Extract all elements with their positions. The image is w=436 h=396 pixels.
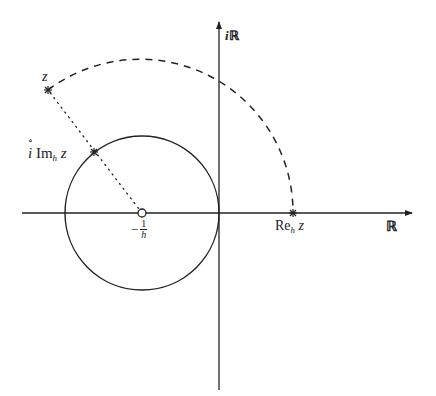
- imaginary-axis-label: iℝ: [225, 29, 239, 42]
- z-label: z: [42, 70, 47, 84]
- re-star-icon: [289, 209, 297, 217]
- im-point-label: ∘ i Imh z: [28, 146, 67, 161]
- circ-mark: ∘: [28, 136, 33, 146]
- dashed-arc: [48, 59, 293, 213]
- center-label: − 1 h: [131, 219, 147, 240]
- center-point-icon: [138, 209, 146, 217]
- real-axis-label: ℝ: [386, 220, 397, 234]
- complex-plane-diagram: iℝ ℝ z ∘ i Imh z − 1 h Reh z: [0, 0, 436, 396]
- re-point-label: Reh z: [275, 219, 304, 233]
- z-star-icon: [44, 86, 52, 94]
- im-star-icon: [90, 148, 98, 156]
